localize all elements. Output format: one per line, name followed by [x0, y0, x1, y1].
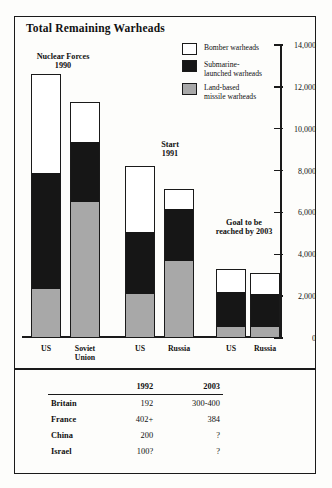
bar-segment-submarine-launched — [217, 292, 245, 327]
bar-segment-land-based — [217, 327, 245, 337]
y-axis-tick-label: 4,000 — [286, 250, 316, 259]
x-axis-label-line1: Soviet — [75, 344, 95, 353]
y-axis-tick-label: 12,000 — [286, 82, 316, 91]
y-axis-tick-label: 8,000 — [286, 166, 316, 175]
bar-us-0 — [31, 74, 61, 338]
y-axis — [280, 45, 282, 338]
group-annotation-1: Start1991 — [140, 140, 200, 159]
table-cell-country: Israel — [48, 444, 110, 460]
x-axis-label-line1: US — [226, 344, 236, 353]
table-header-country — [48, 380, 110, 395]
group-annotation-2: Goal to bereached by 2003 — [196, 218, 292, 237]
x-axis-labels: USSovietUnionUSRussiaUSRussia — [22, 340, 282, 366]
y-axis-tick — [274, 212, 283, 213]
table-cell-country: Britain — [48, 395, 110, 412]
page-title: Total Remaining Warheads — [26, 22, 165, 34]
bar-segment-submarine-launched — [71, 142, 99, 202]
x-axis-label-line2: Union — [75, 353, 95, 362]
group-annotation-0: Nuclear Forces1990 — [18, 52, 108, 71]
bar-segment-land-based — [251, 327, 279, 337]
table-row: France402+384 — [48, 411, 223, 427]
y-axis-tick-label: 10,000 — [286, 124, 316, 133]
table-header-2003: 2003 — [156, 380, 223, 395]
y-axis-tick — [274, 170, 283, 171]
bar-segment-submarine-launched — [165, 209, 193, 261]
table-header-1992: 1992 — [110, 380, 156, 395]
y-axis-tick-label: 2,000 — [286, 292, 316, 301]
table-cell-country: France — [48, 411, 110, 427]
bar-segment-land-based — [32, 289, 60, 337]
bar-segment-land-based — [165, 261, 193, 337]
table-cell-1992: 200 — [110, 427, 156, 443]
bar-us-4 — [216, 269, 246, 338]
x-axis-label-line1: US — [135, 344, 145, 353]
group-annotation-line2: 1990 — [55, 61, 71, 70]
y-axis-tick-label: 14,000 — [286, 41, 316, 50]
group-annotation-line2: 1991 — [162, 149, 178, 158]
table-row: China200? — [48, 427, 223, 443]
table-cell-country: China — [48, 427, 110, 443]
y-axis-tick — [274, 254, 283, 255]
bar-us-2 — [125, 166, 155, 338]
table-cell-1992: 192 — [110, 395, 156, 412]
bar-segment-bomber — [71, 103, 99, 142]
bar-segment-land-based — [126, 294, 154, 337]
bar-segment-bomber — [126, 167, 154, 231]
table-cell-2003: 384 — [156, 411, 223, 427]
group-annotation-line1: Start — [161, 140, 179, 149]
y-axis-tick-label: 0 — [286, 334, 316, 343]
warhead-table: 1992 2003 Britain192300-400France402+384… — [48, 380, 223, 460]
bar-segment-bomber — [217, 270, 245, 292]
group-annotation-line1: Nuclear Forces — [37, 52, 90, 61]
y-axis-tick — [274, 44, 283, 45]
table-row: Israel100?? — [48, 444, 223, 460]
x-axis-label-line1: Russia — [254, 344, 276, 353]
bar-segment-submarine-launched — [251, 294, 279, 326]
table-cell-1992: 100? — [110, 444, 156, 460]
y-axis-tick-label: 6,000 — [286, 208, 316, 217]
y-axis-tick — [274, 86, 283, 87]
bar-segment-bomber — [32, 75, 60, 173]
table-header-row: 1992 2003 — [48, 380, 223, 395]
bar-segment-submarine-launched — [32, 173, 60, 289]
table-row: Britain192300-400 — [48, 395, 223, 412]
group-annotation-line2: reached by 2003 — [216, 227, 273, 236]
bar-segment-land-based — [71, 202, 99, 337]
bar-soviet-union-1 — [70, 102, 100, 338]
x-axis-label-3: Russia — [153, 344, 205, 353]
table-cell-2003: ? — [156, 444, 223, 460]
chart-plot-area — [22, 45, 282, 338]
bar-segment-bomber — [165, 190, 193, 209]
group-annotation-line1: Goal to be — [226, 218, 262, 227]
table-cell-2003: 300-400 — [156, 395, 223, 412]
x-axis-label-5: Russia — [239, 344, 291, 353]
table-cell-1992: 402+ — [110, 411, 156, 427]
bar-russia-5 — [250, 273, 280, 338]
x-axis-rule — [14, 368, 316, 370]
x-axis-label-line1: US — [41, 344, 51, 353]
figure-root: Total Remaining Warheads Bomber warheads… — [0, 0, 332, 488]
table-cell-2003: ? — [156, 427, 223, 443]
x-axis-label-line1: Russia — [168, 344, 190, 353]
x-axis-label-1: SovietUnion — [59, 344, 111, 362]
bar-russia-3 — [164, 189, 194, 338]
bar-segment-submarine-launched — [126, 232, 154, 294]
y-axis-tick — [274, 128, 283, 129]
bar-segment-bomber — [251, 274, 279, 294]
